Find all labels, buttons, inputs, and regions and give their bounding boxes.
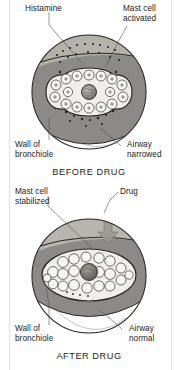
figure-bronchiole-drug-comparison: Histamine Mast cell activated Wall of br…	[0, 0, 179, 370]
label-wall-of-bronchiole-after-line1: Wall of	[15, 324, 41, 333]
after-mast-cell-stabilized-body	[81, 264, 98, 281]
label-mast-cell-stabilized-line1: Mast cell	[15, 187, 48, 196]
label-histamine: Histamine	[25, 4, 62, 13]
label-wall-of-bronchiole-before-line2: bronchiole	[15, 150, 54, 159]
caption-before-drug: BEFORE DRUG	[52, 167, 125, 177]
caption-after-drug: AFTER DRUG	[56, 351, 121, 361]
before-mast-cell-activated-body	[82, 85, 97, 100]
label-airway-narrowed-line2: narrowed	[127, 150, 162, 159]
figure-canvas: Histamine Mast cell activated Wall of br…	[0, 0, 179, 370]
label-mast-cell-activated-line2: activated	[123, 14, 157, 23]
label-mast-cell-activated-line1: Mast cell	[123, 4, 156, 13]
label-mast-cell-stabilized-line2: stabilized	[15, 197, 50, 206]
label-wall-of-bronchiole-before-line1: Wall of	[15, 140, 41, 149]
label-wall-of-bronchiole-after-line2: bronchiole	[15, 334, 54, 343]
label-airway-narrowed-line1: Airway	[127, 140, 153, 149]
label-airway-normal-line2: normal	[129, 334, 154, 343]
label-drug: Drug	[120, 187, 138, 196]
label-airway-normal-line1: Airway	[129, 324, 155, 333]
